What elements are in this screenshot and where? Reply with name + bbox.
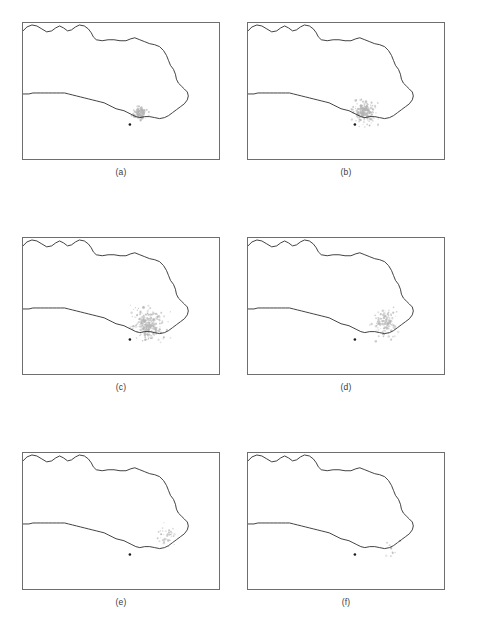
panel-e-plume-layer (157, 522, 176, 547)
panel-b-plot (247, 22, 445, 160)
panel-b-reference-marker (354, 123, 357, 126)
panel-d-reference-marker (354, 338, 357, 341)
panel-c-reference-marker (129, 338, 132, 341)
panel-e-plot (22, 452, 220, 590)
panel-e-svg (23, 453, 219, 589)
panel-f-plot (247, 452, 445, 590)
panel-f: (f) (247, 452, 445, 608)
panel-a-plume-layer (131, 105, 150, 121)
panel-b: (b) (247, 22, 445, 178)
panel-c-svg (23, 238, 219, 374)
panel-c-plume-layer (129, 305, 171, 344)
panel-d: (d) (247, 237, 445, 393)
panel-b-svg (248, 23, 444, 159)
panel-a-coastline (23, 25, 188, 119)
panel-b-caption: (b) (247, 166, 445, 178)
panel-f-svg (248, 453, 444, 589)
panel-f-reference-marker (354, 553, 357, 556)
panel-d-caption: (d) (247, 381, 445, 393)
panel-c-plot (22, 237, 220, 375)
panel-d-plot (247, 237, 445, 375)
panel-e-reference-marker (129, 553, 132, 556)
panel-c-coastline (23, 240, 188, 334)
panel-a-reference-marker (129, 123, 132, 126)
panel-a: (a) (22, 22, 220, 178)
panel-a-caption: (a) (22, 166, 220, 178)
panel-e-caption: (e) (22, 596, 220, 608)
panel-f-caption: (f) (247, 596, 445, 608)
panel-a-plot (22, 22, 220, 160)
panel-c: (c) (22, 237, 220, 393)
panel-b-coastline (248, 25, 413, 119)
figure-root: (a) (b) (c) (d (0, 0, 486, 631)
panel-c-caption: (c) (22, 381, 220, 393)
panel-e: (e) (22, 452, 220, 608)
panel-d-plume-layer (369, 307, 399, 343)
panel-d-svg (248, 238, 444, 374)
panel-f-coastline (248, 455, 413, 549)
panel-a-svg (23, 23, 219, 159)
